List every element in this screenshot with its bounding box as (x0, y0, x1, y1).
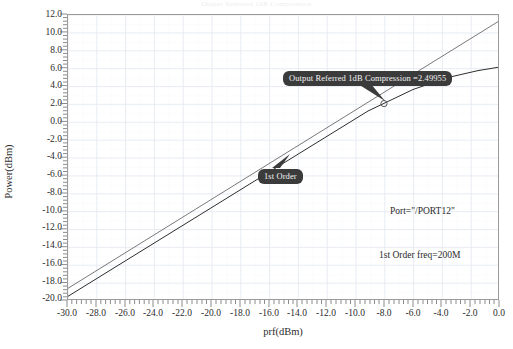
y-axis-title-wrap: Power(dBm) (0, 120, 16, 230)
y-tick-3: 6.0 (18, 64, 62, 74)
y-tick-7: -2.0 (18, 135, 62, 145)
y-tick-13: -14.0 (18, 241, 62, 251)
y-tick-16: -20.0 (18, 294, 62, 304)
figure-title: Output Referred 1dB Compression (0, 0, 513, 8)
x-axis-title: prf(dBm) (67, 326, 499, 337)
y-tick-11: -10.0 (18, 206, 62, 216)
y-axis-title: Power(dBm) (3, 117, 14, 227)
port-annotation: Port="/PORT12" (390, 206, 455, 216)
y-tick-6: 0.0 (18, 117, 62, 127)
first-order-freq-annotation: 1st Order freq=200M (379, 250, 460, 260)
y-tick-12: -12.0 (18, 223, 62, 233)
y-tick-1: 10.0 (18, 28, 62, 38)
y-tick-15: -18.0 (18, 277, 62, 287)
x-minor-ticks (67, 300, 499, 307)
y-tick-2: 8.0 (18, 46, 62, 56)
y-tick-0: 12.0 (18, 10, 62, 20)
y-tick-10: -8.0 (18, 188, 62, 198)
x-tick-15: 0.0 (477, 308, 513, 318)
figure-root: Output Referred 1dB Compression 12.0 10.… (0, 0, 513, 349)
y-tick-14: -16.0 (18, 259, 62, 269)
x-tick-labels: -30.0 -28.0 -26.0 -24.0 -22.0 -20.0 -18.… (0, 308, 513, 322)
y-tick-8: -4.0 (18, 152, 62, 162)
y-tick-9: -6.0 (18, 170, 62, 180)
y-tick-4: 4.0 (18, 81, 62, 91)
first-order-callout[interactable]: 1st Order (258, 169, 303, 184)
compression-callout[interactable]: Output Referred 1dB Compression =2.49955 (283, 71, 452, 86)
y-tick-labels: 12.0 10.0 8.0 6.0 4.0 2.0 0.0 -2.0 -4.0 … (14, 0, 62, 300)
y-tick-5: 2.0 (18, 99, 62, 109)
